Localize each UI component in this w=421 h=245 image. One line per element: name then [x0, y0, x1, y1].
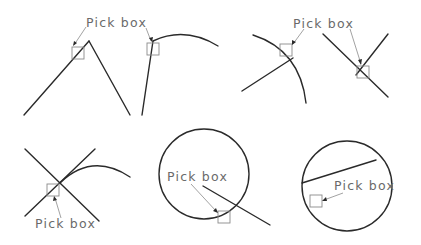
arc: [153, 35, 218, 46]
arc: [253, 35, 306, 103]
arrowhead-icon: [358, 59, 362, 65]
panel-apex: [24, 41, 130, 115]
pick-box-label: Pick box: [86, 15, 147, 30]
pick-box-diagram: Pick box Pick box Pick box: [0, 0, 421, 245]
diagonal-line-a: [323, 34, 388, 97]
apex-right-line: [89, 41, 130, 115]
arc: [60, 166, 130, 183]
pick-box-square: [218, 211, 230, 223]
panel-circle-chord: Pick box: [302, 141, 395, 231]
label-group-top-left: Pick box: [73, 15, 153, 46]
leader-line: [350, 29, 361, 64]
pick-box-label: Pick box: [334, 178, 395, 193]
steep-line: [142, 41, 153, 115]
leader-line: [55, 198, 61, 218]
pick-box-label: Pick box: [167, 169, 228, 184]
panel-line-on-arc: [242, 35, 306, 103]
diagonal-line-b: [356, 34, 388, 75]
pick-box-label: Pick box: [293, 16, 354, 31]
apex-left-line: [24, 41, 89, 115]
leader-line: [324, 193, 343, 200]
panel-circle-line: Pick box: [159, 129, 270, 225]
diagonal-line-a: [25, 149, 99, 221]
arrowhead-icon: [53, 196, 57, 201]
arrowhead-icon: [322, 197, 327, 201]
panel-crossing-lines-arc: Pick box: [25, 149, 130, 231]
line-to-arc: [242, 58, 293, 91]
leader-line: [191, 184, 216, 211]
panel-line-arc-endpoint: [142, 35, 218, 115]
panel-line-intersection: [323, 34, 388, 97]
pick-box-label: Pick box: [35, 216, 96, 231]
pick-box-square: [310, 195, 322, 207]
crossing-line: [203, 186, 270, 225]
label-group-top-right: Pick box: [292, 16, 362, 65]
